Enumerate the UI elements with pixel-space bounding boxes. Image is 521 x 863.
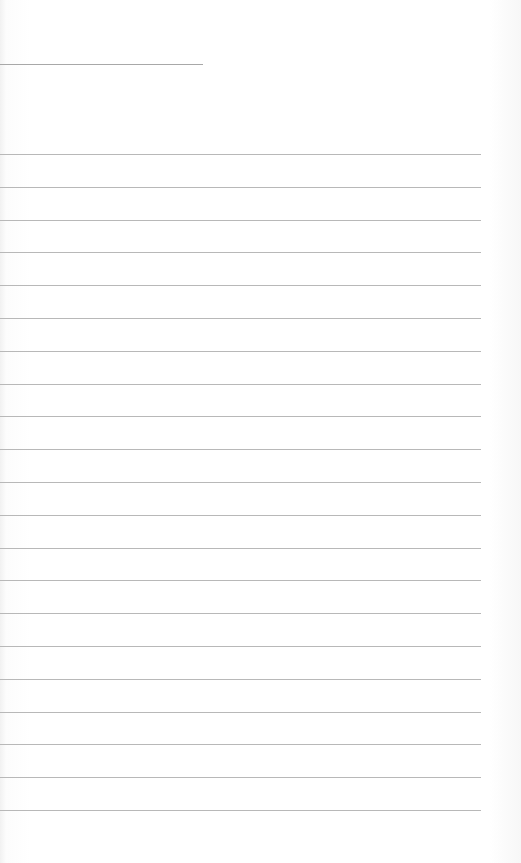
lined-paper-page [0,0,521,863]
ruled-line [0,252,481,253]
ruled-line [0,351,481,352]
ruled-line [0,515,481,516]
ruled-line [0,580,481,581]
ruled-line [0,285,481,286]
ruled-line [0,220,481,221]
ruled-line [0,154,481,155]
ruled-line [0,679,481,680]
ruled-line [0,384,481,385]
ruled-line [0,416,481,417]
ruled-line [0,712,481,713]
ruled-line [0,548,481,549]
header-rule [0,64,203,65]
ruled-line [0,646,481,647]
ruled-line [0,449,481,450]
ruled-line [0,810,481,811]
ruled-line [0,318,481,319]
ruled-line [0,613,481,614]
ruled-line [0,744,481,745]
ruled-line [0,187,481,188]
ruled-line [0,777,481,778]
ruled-line [0,482,481,483]
